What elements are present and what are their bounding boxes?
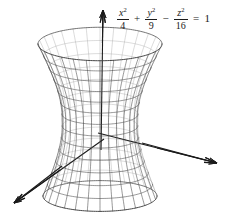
equation-operator-plus: + <box>134 13 140 24</box>
term2-denominator: 9 <box>145 19 157 32</box>
hyperboloid-surface-plot <box>0 0 230 213</box>
equation-right-hand-side: 1 <box>205 13 211 24</box>
term1-denominator: 4 <box>117 19 129 32</box>
equation-equals-sign: = <box>193 13 199 24</box>
equation-term-y: y2 9 <box>145 6 157 32</box>
equation-term-z: z2 16 <box>174 6 188 32</box>
equation-label: x2 4 + y2 9 − z2 16 = 1 <box>116 6 210 32</box>
equation-operator-minus: − <box>162 13 168 24</box>
equation-term-x: x2 4 <box>117 6 129 32</box>
coordinate-axes-foreground <box>14 10 217 203</box>
term3-denominator: 16 <box>174 19 188 32</box>
hyperboloid-figure: x2 4 + y2 9 − z2 16 = 1 <box>0 0 230 213</box>
term2-exponent: 2 <box>152 6 155 13</box>
term3-exponent: 2 <box>181 6 184 13</box>
term1-exponent: 2 <box>123 6 126 13</box>
coordinate-axes <box>14 10 217 203</box>
